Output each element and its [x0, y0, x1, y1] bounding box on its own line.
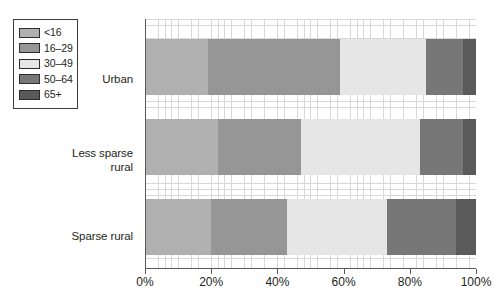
- bar-segment: [420, 119, 463, 175]
- bar-segment: [426, 39, 462, 95]
- bar-segment: [387, 199, 457, 255]
- bar-segment: [145, 39, 208, 95]
- bar-segment: [340, 39, 426, 95]
- x-axis-tick-label: 80%: [398, 275, 422, 289]
- bar-segment: [208, 39, 340, 95]
- bar-segment: [287, 199, 386, 255]
- bar-segment: [218, 119, 301, 175]
- clipped-caption: [0, 295, 504, 303]
- x-axis-tick-label: 60%: [332, 275, 356, 289]
- x-axis-tick-label: 0%: [136, 275, 153, 289]
- bar-segment: [211, 199, 287, 255]
- x-axis-tick: [344, 269, 345, 274]
- bar-segment: [301, 119, 420, 175]
- category-label-less-sparse-rural-line2: rural: [0, 161, 133, 175]
- x-axis-tick-label: 100%: [461, 275, 492, 289]
- stacked-bar-chart: <16 16–29 30–49 50–64 65+ Urban Less spa…: [0, 0, 504, 303]
- x-axis-tick-label: 40%: [265, 275, 289, 289]
- category-label-sparse-rural: Sparse rural: [0, 230, 133, 244]
- x-axis-tick: [410, 269, 411, 274]
- x-axis-tick-label: 20%: [199, 275, 223, 289]
- category-label-less-sparse-rural: Less sparse rural: [0, 147, 133, 174]
- bar-row: [145, 119, 476, 175]
- bar-segment: [463, 39, 476, 95]
- bar-row: [145, 199, 476, 255]
- bar-row: [145, 39, 476, 95]
- bar-segment: [145, 119, 218, 175]
- category-axis-labels: Urban Less sparse rural Sparse rural: [0, 19, 139, 269]
- bar-segment: [145, 199, 211, 255]
- category-label-urban: Urban: [0, 73, 133, 87]
- bar-segment: [456, 199, 476, 255]
- x-axis-tick: [277, 269, 278, 274]
- x-axis-tick: [145, 269, 146, 274]
- x-axis-tick: [211, 269, 212, 274]
- bar-segment: [463, 119, 476, 175]
- category-label-less-sparse-rural-line1: Less sparse: [0, 147, 133, 161]
- plot-area: [145, 19, 476, 269]
- x-axis-tick: [476, 269, 477, 274]
